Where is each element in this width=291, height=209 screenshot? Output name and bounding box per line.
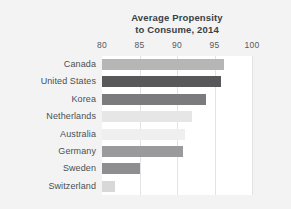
category-label-korea: Korea (0, 91, 96, 108)
category-label-canada: Canada (0, 56, 96, 73)
bar-germany (102, 146, 183, 157)
chart-title-line-2: to Consume, 2014 (96, 24, 258, 36)
bar-switzerland (102, 181, 115, 192)
bar-row (102, 56, 252, 73)
bar-row (102, 73, 252, 90)
bar-korea (102, 94, 206, 105)
x-tick-label-85: 85 (135, 40, 145, 50)
category-label-united-states: United States (0, 73, 96, 90)
bar-row (102, 178, 252, 195)
bar-row (102, 126, 252, 143)
x-tick-label-90: 90 (172, 40, 182, 50)
x-axis-tick-labels: 80859095100 (0, 40, 291, 54)
category-label-sweden: Sweden (0, 160, 96, 177)
bar-row (102, 108, 252, 125)
chart-figure: Average Propensity to Consume, 2014 8085… (0, 0, 291, 209)
chart-title: Average Propensity to Consume, 2014 (96, 12, 258, 35)
chart-title-line-1: Average Propensity (96, 12, 258, 24)
bar-row (102, 143, 252, 160)
category-label-netherlands: Netherlands (0, 108, 96, 125)
bar-row (102, 91, 252, 108)
x-tick-label-80: 80 (97, 40, 107, 50)
bar-united-states (102, 76, 221, 87)
y-axis-category-labels: CanadaUnited StatesKoreaNetherlandsAustr… (0, 56, 96, 195)
x-tick-label-100: 100 (245, 40, 260, 50)
bar-canada (102, 59, 224, 70)
bar-sweden (102, 163, 140, 174)
category-label-australia: Australia (0, 126, 96, 143)
bar-series (102, 56, 252, 195)
category-label-germany: Germany (0, 143, 96, 160)
category-label-switzerland: Switzerland (0, 178, 96, 195)
gridline-100 (252, 56, 253, 195)
bar-row (102, 160, 252, 177)
bar-netherlands (102, 111, 192, 122)
bar-australia (102, 129, 185, 140)
x-tick-label-95: 95 (210, 40, 220, 50)
